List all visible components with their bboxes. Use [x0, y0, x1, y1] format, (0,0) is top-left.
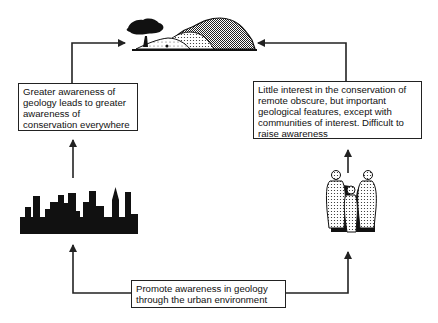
arrow-bottom-to-city	[73, 245, 131, 293]
bottom-box-promote-awareness: Promote awareness in geology through the…	[131, 280, 286, 308]
right-box-line: Little interest in the conservation of	[258, 84, 417, 95]
right-box-line: remote obscure, but important	[258, 95, 417, 106]
left-box-line: awareness of	[23, 108, 133, 119]
bottom-box-line: Promote awareness in geology	[136, 283, 281, 294]
left-box-greater-awareness: Greater awareness of geology leads to gr…	[18, 83, 138, 131]
left-box-line: geology leads to greater	[23, 97, 133, 108]
arrow-right-box-to-landscape	[258, 43, 346, 82]
city-skyline-icon	[20, 187, 138, 234]
bottom-box-line: through the urban environment	[136, 294, 281, 305]
arrow-bottom-to-people	[285, 252, 348, 293]
left-box-line: Greater awareness of	[23, 86, 133, 97]
people-group-icon	[326, 171, 376, 233]
right-box-little-interest: Little interest in the conservation of r…	[253, 81, 422, 139]
left-box-line: conservation everywhere	[23, 119, 133, 130]
right-box-line: raise awareness	[258, 128, 417, 139]
right-box-line: communities of interest. Difficult to	[258, 117, 417, 128]
right-box-line: geological features, except with	[258, 106, 417, 117]
diagram-canvas	[0, 0, 438, 323]
arrow-left-box-to-landscape	[72, 43, 125, 84]
hill-with-tree-icon	[127, 18, 257, 50]
